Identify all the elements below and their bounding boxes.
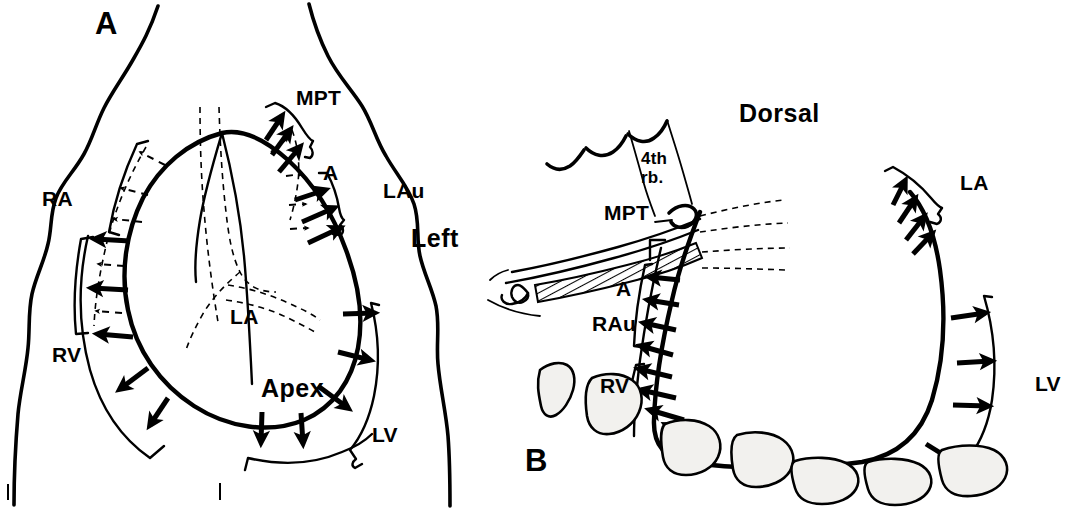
thorax-outline-left (14, 6, 158, 505)
rv-arrow-3 (98, 334, 133, 337)
vessel-lower-edge-2 (490, 270, 508, 280)
label-lau: LAu (383, 179, 425, 202)
label-fourth-rib-line2: rb. (641, 168, 663, 187)
fourth-rib-outline-2 (667, 120, 692, 204)
vessel-dashed-3 (702, 248, 790, 252)
figure-canvas: A RA RV MPT A LAu Left LA Apex LV (0, 0, 1082, 511)
la-arrow-1 (893, 181, 905, 205)
lv-arrow-2-b (957, 361, 991, 363)
lv-arrow-1 (343, 313, 374, 314)
label-fourth-rib-line1: 4th (641, 149, 667, 168)
rib-wave-2 (586, 136, 626, 155)
label-mpt-b: MPT (604, 201, 649, 224)
vessel-dashed-4 (702, 268, 786, 270)
rv-arrow-2 (92, 288, 128, 290)
ra-arrow-1 (140, 152, 165, 165)
label-rv: RV (52, 343, 81, 366)
rv-arrow-5 (150, 398, 168, 425)
panel-a-group: A RA RV MPT A LAu Left LA Apex LV (14, 4, 459, 506)
rau-arrow-1 (648, 300, 679, 305)
cartilage-5 (792, 458, 859, 504)
rv-arrow-dash-2 (96, 311, 122, 313)
label-apex: Apex (261, 374, 324, 402)
panel-a-letter: A (95, 6, 118, 41)
rib-wave-1 (547, 150, 584, 169)
rv-arrow-1-b (641, 390, 676, 398)
label-dorsal: Dorsal (739, 99, 820, 127)
mpt-arrow-1 (266, 116, 282, 140)
label-ra: RA (42, 187, 73, 210)
label-left-orientation: Left (411, 224, 459, 252)
a-dash-arrow-3 (290, 228, 308, 229)
lv-arrow-3-b (953, 405, 988, 406)
vessel-dashed-1 (700, 200, 784, 216)
vessel-dashed-2 (700, 223, 788, 232)
label-aorta-a: A (323, 161, 338, 184)
rau-arrow-2 (644, 323, 676, 330)
rib-wave-3 (628, 121, 667, 141)
lv-arrow-4 (261, 412, 262, 442)
label-la-a: LA (230, 305, 259, 328)
ra-arrow-3 (114, 219, 142, 222)
label-rau: RAu (592, 312, 636, 335)
panel-b-group: B Dorsal 4th rb. MPT A RAu RV LA LV (488, 99, 1061, 505)
a-dash-arrow-1 (286, 174, 302, 176)
vessel-cap-ellipse (511, 285, 528, 303)
rv-arrow-1 (95, 239, 130, 241)
cartilage-4 (732, 432, 794, 487)
mpt-curl-b (669, 206, 696, 228)
label-mpt-a: MPT (296, 86, 341, 109)
heart-interior-line-2 (222, 133, 252, 384)
la-arrow-2 (899, 199, 915, 223)
b-arrow-a (650, 277, 680, 280)
label-aorta-b: A (616, 277, 631, 300)
label-la-b: LA (960, 171, 989, 194)
panel-b-letter: B (525, 443, 548, 478)
label-lv-a: LV (372, 423, 398, 446)
diagram-svg: A RA RV MPT A LAu Left LA Apex LV (0, 0, 1082, 511)
rau-arrow-3 (641, 346, 673, 355)
cartilage-6 (865, 459, 932, 505)
label-lv-b: LV (1035, 372, 1061, 395)
cartilage-3 (661, 420, 720, 475)
cartilage-1 (538, 363, 574, 417)
a-dash-arrow-2 (289, 204, 306, 205)
ra-rv-dashed-contour (94, 147, 146, 326)
label-rv-b: RV (600, 374, 629, 397)
lv-arrow-5 (301, 413, 303, 443)
rv-arrow-4 (120, 368, 148, 389)
lv-arrow-1-b (951, 313, 985, 318)
la-arrow-3 (906, 217, 924, 240)
heart-interior-line-1 (195, 133, 222, 282)
cartilage-7 (939, 446, 1008, 497)
vessel-lower-edge (488, 300, 540, 316)
la-arrow-4 (913, 234, 932, 254)
